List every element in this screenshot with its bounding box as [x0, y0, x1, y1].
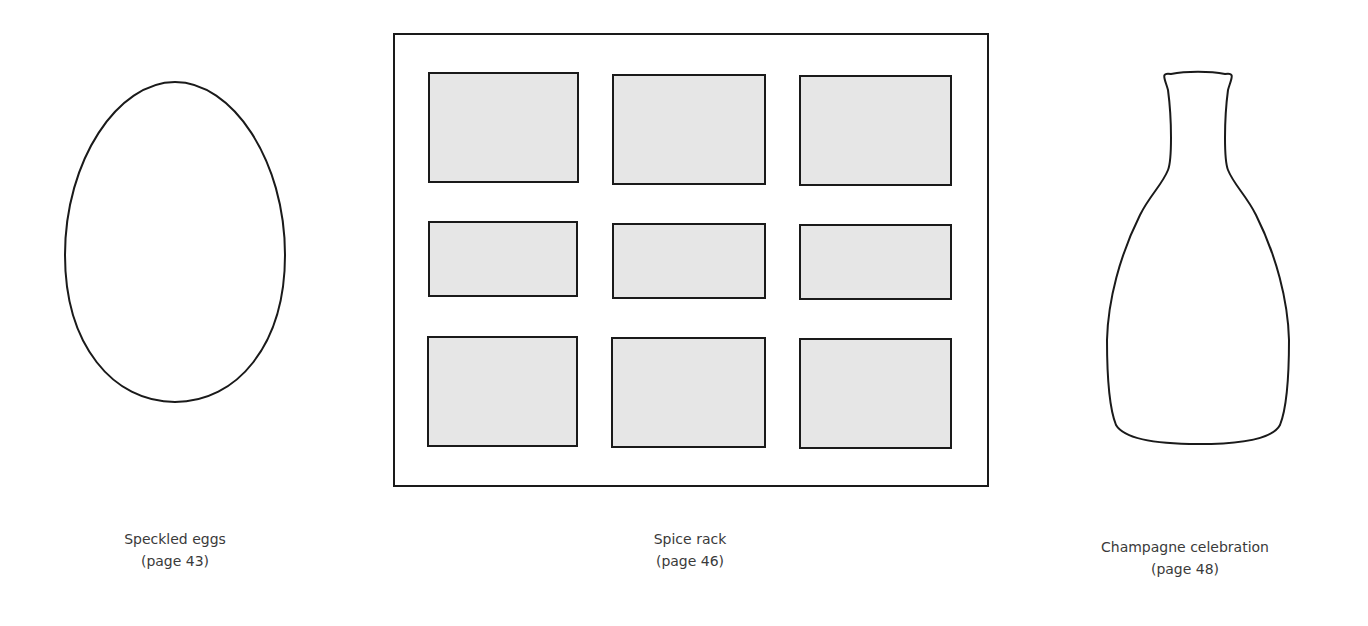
spice-rack-panel [800, 76, 951, 185]
egg-outline [65, 82, 285, 402]
spice-rack-panel [429, 222, 577, 296]
spice-rack-panel [800, 339, 951, 448]
spice-rack-panel [800, 225, 951, 299]
spice-rack-panel [429, 73, 578, 182]
caption-page: (page 46) [610, 550, 770, 572]
caption-page: (page 43) [95, 550, 255, 572]
caption-title: Speckled eggs [95, 528, 255, 550]
spice-rack-panel [613, 75, 765, 184]
caption-spice-rack: Spice rack (page 46) [610, 528, 770, 572]
spice-rack-panel [428, 337, 577, 446]
spice-rack-panel [612, 338, 765, 447]
caption-speckled-eggs: Speckled eggs (page 43) [95, 528, 255, 572]
spice-rack-panel [613, 224, 765, 298]
bottle-outline [1107, 72, 1289, 444]
caption-page: (page 48) [1085, 558, 1285, 580]
caption-title: Champagne celebration [1085, 536, 1285, 558]
caption-champagne-celebration: Champagne celebration (page 48) [1085, 536, 1285, 580]
caption-title: Spice rack [610, 528, 770, 550]
